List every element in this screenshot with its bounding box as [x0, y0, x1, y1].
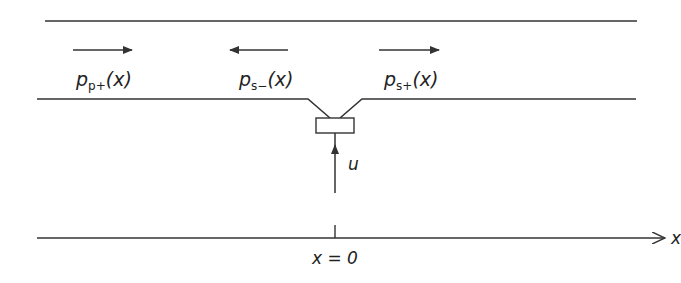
label-u: u	[348, 154, 359, 174]
label-s-minus: ps−(x)	[238, 68, 293, 93]
duct-bottom-wall-left	[37, 99, 330, 118]
label-origin: x = 0	[311, 248, 358, 268]
label-p-plus: pp+(x)	[75, 68, 132, 93]
label-x-axis: x	[670, 228, 681, 248]
source-box	[316, 118, 354, 133]
duct-bottom-wall-right	[340, 99, 636, 118]
label-s-plus: ps+(x)	[383, 68, 438, 93]
duct-diagram: pp+(x) ps−(x) ps+(x) u x x = 0	[0, 0, 681, 283]
